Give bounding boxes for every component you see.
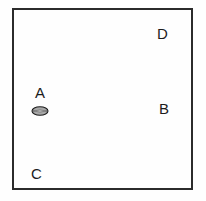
shaded-ellipse-icon (31, 103, 49, 115)
region-label-a: A (35, 85, 45, 100)
figure-canvas: D A B C (0, 0, 206, 201)
region-label-b: B (159, 101, 169, 116)
region-label-d: D (157, 26, 168, 41)
region-label-c: C (31, 166, 42, 181)
